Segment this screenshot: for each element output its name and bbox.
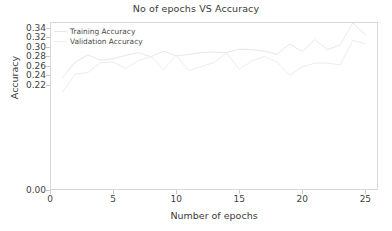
y-tick-label: 0.26 bbox=[2, 61, 46, 71]
chart-figure: No of epochs VS Accuracy Accuracy 0.000.… bbox=[0, 0, 392, 231]
x-tick-label: 20 bbox=[287, 194, 317, 204]
x-axis-label: Number of epochs bbox=[50, 210, 378, 221]
y-tick-label: 0.30 bbox=[2, 42, 46, 52]
y-tick-label: 0.24 bbox=[2, 70, 46, 80]
x-tick-mark bbox=[113, 190, 114, 194]
chart-legend: Training AccuracyValidation Accuracy bbox=[54, 27, 143, 46]
y-tick-label: 0.28 bbox=[2, 51, 46, 61]
legend-item: Validation Accuracy bbox=[54, 37, 143, 46]
y-tick-mark bbox=[46, 66, 50, 67]
x-tick-label: 25 bbox=[350, 194, 380, 204]
x-tick-mark bbox=[365, 190, 366, 194]
y-tick-mark bbox=[46, 47, 50, 48]
plot-lines bbox=[50, 22, 378, 190]
x-tick-label: 5 bbox=[98, 194, 128, 204]
y-tick-mark bbox=[46, 56, 50, 57]
y-tick-label: 0.32 bbox=[2, 32, 46, 42]
legend-item: Training Accuracy bbox=[54, 27, 143, 36]
chart-title: No of epochs VS Accuracy bbox=[0, 3, 392, 14]
legend-line-icon bbox=[54, 41, 67, 42]
y-tick-label: 0.34 bbox=[2, 23, 46, 33]
x-tick-mark bbox=[176, 190, 177, 194]
y-tick-label: 0.22 bbox=[2, 80, 46, 90]
x-tick-mark bbox=[50, 190, 51, 194]
legend-line-icon bbox=[54, 31, 67, 32]
y-tick-mark bbox=[46, 75, 50, 76]
x-tick-mark bbox=[239, 190, 240, 194]
x-tick-label: 15 bbox=[224, 194, 254, 204]
legend-label: Training Accuracy bbox=[70, 27, 135, 36]
x-tick-label: 0 bbox=[35, 194, 65, 204]
legend-label: Validation Accuracy bbox=[70, 37, 143, 46]
x-tick-mark bbox=[302, 190, 303, 194]
series-line bbox=[63, 40, 366, 92]
y-tick-mark bbox=[46, 28, 50, 29]
x-tick-label: 10 bbox=[161, 194, 191, 204]
y-tick-mark bbox=[46, 37, 50, 38]
y-tick-mark bbox=[46, 85, 50, 86]
